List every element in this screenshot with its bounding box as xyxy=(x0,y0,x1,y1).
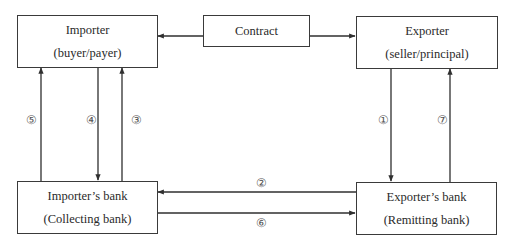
edge-label-step5: ⑤ xyxy=(26,114,37,126)
node-exporter: Exporter (seller/principal) xyxy=(356,16,498,69)
node-exporter-subtitle: (seller/principal) xyxy=(385,48,468,61)
edge-label-step4: ④ xyxy=(86,114,97,126)
edge-label-step3: ③ xyxy=(131,114,142,126)
node-importers-bank-subtitle: (Collecting bank) xyxy=(44,213,132,226)
node-exporters-bank: Exporter’s bank (Remitting bank) xyxy=(356,182,497,235)
node-contract-title: Contract xyxy=(235,25,278,38)
node-exporters-bank-title: Exporter’s bank xyxy=(387,191,467,204)
edge-label-step2: ② xyxy=(256,177,267,189)
node-exporters-bank-subtitle: (Remitting bank) xyxy=(384,214,470,227)
edge-label-step6: ⑥ xyxy=(256,217,267,229)
edge-label-step7: ⑦ xyxy=(437,114,448,126)
node-contract: Contract xyxy=(203,15,310,47)
node-importers-bank: Importer’s bank (Collecting bank) xyxy=(17,181,158,234)
node-importers-bank-title: Importer’s bank xyxy=(48,190,128,203)
node-importer-title: Importer xyxy=(66,24,110,37)
node-exporter-title: Exporter xyxy=(405,25,449,38)
node-importer: Importer (buyer/payer) xyxy=(17,15,158,68)
edge-label-step1: ① xyxy=(378,114,389,126)
node-importer-subtitle: (buyer/payer) xyxy=(53,47,121,60)
